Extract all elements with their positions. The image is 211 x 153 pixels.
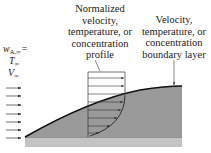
boundary-layer-label-line: Velocity,: [135, 14, 211, 26]
profile-label-line: temperature, or: [60, 26, 140, 38]
v-subscript: ∞: [14, 72, 19, 79]
t-subscript: ∞: [15, 60, 20, 67]
boundary-layer-region: [25, 86, 182, 137]
profile-label-line: profile: [60, 49, 140, 61]
free-stream-concentration-symbol: wA,∞=: [3, 44, 27, 55]
w-subscript: A,∞: [10, 48, 21, 55]
boundary-layer-label-line: concentration: [135, 37, 211, 49]
boundary-layer-diagram: Normalized velocity, temperature, or con…: [0, 0, 211, 153]
w-symbol: w: [3, 43, 10, 54]
profile-label-line: concentration: [60, 38, 140, 50]
plate: [25, 137, 182, 147]
boundary-layer-label: Velocity, temperature, or concentration …: [135, 14, 211, 60]
free-stream-arrows: [6, 88, 21, 138]
profile-label: Normalized velocity, temperature, or con…: [60, 3, 140, 61]
t-symbol: T: [9, 55, 15, 66]
profile-label-line: velocity,: [60, 15, 140, 27]
equals-sign: =: [22, 43, 28, 54]
free-stream-velocity-symbol: V∞: [8, 68, 19, 79]
boundary-layer-label-line: temperature, or: [135, 26, 211, 38]
profile-label-pointer: [95, 60, 100, 71]
profile-label-line: Normalized: [60, 3, 140, 15]
free-stream-temperature-symbol: T∞: [9, 56, 19, 67]
boundary-layer-label-line: boundary layer: [135, 49, 211, 61]
